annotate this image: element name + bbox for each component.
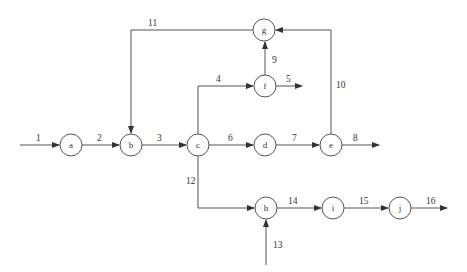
node-j: j [389, 197, 411, 219]
svg-text:a: a [69, 140, 73, 150]
node-f: f [254, 75, 276, 97]
svg-text:7: 7 [292, 133, 297, 143]
edge-9: 9 [265, 42, 277, 75]
node-g: g [253, 19, 275, 41]
svg-text:2: 2 [97, 133, 102, 143]
edge-8: 8 [342, 133, 379, 145]
svg-text:10: 10 [336, 80, 346, 90]
edge-14: 14 [277, 196, 321, 208]
svg-text:13: 13 [273, 240, 283, 250]
edge-2: 2 [82, 133, 119, 145]
svg-text:14: 14 [288, 196, 298, 206]
svg-text:5: 5 [286, 74, 291, 84]
node-d: d [254, 134, 276, 156]
node-e: e [320, 134, 342, 156]
svg-text:11: 11 [148, 18, 157, 28]
flow-diagram: 1 2 3 4 5 6 7 8 9 10 11 12 [0, 0, 467, 272]
svg-text:h: h [264, 203, 269, 213]
edge-7: 7 [276, 133, 319, 145]
svg-text:4: 4 [216, 74, 221, 84]
node-h: h [255, 197, 277, 219]
edge-6: 6 [209, 133, 253, 145]
svg-text:e: e [329, 140, 333, 150]
svg-text:3: 3 [157, 133, 162, 143]
node-a: a [60, 134, 82, 156]
node-b: b [120, 134, 142, 156]
node-c: c [187, 134, 209, 156]
edge-15: 15 [344, 196, 388, 208]
svg-text:8: 8 [353, 133, 358, 143]
svg-text:g: g [262, 25, 267, 35]
svg-text:12: 12 [186, 176, 196, 186]
edge-5: 5 [276, 74, 302, 86]
edge-16: 16 [411, 196, 447, 208]
edge-13: 13 [266, 220, 283, 265]
edge-1: 1 [20, 133, 59, 145]
edge-11: 11 [131, 18, 253, 133]
svg-text:f: f [264, 81, 267, 91]
edge-12: 12 [186, 156, 254, 208]
svg-text:b: b [129, 140, 134, 150]
svg-text:1: 1 [36, 133, 41, 143]
edge-3: 3 [142, 133, 186, 145]
svg-text:6: 6 [228, 133, 233, 143]
svg-text:16: 16 [426, 196, 436, 206]
node-i: i [322, 197, 344, 219]
svg-text:c: c [196, 140, 200, 150]
svg-text:9: 9 [272, 55, 277, 65]
svg-text:15: 15 [359, 196, 369, 206]
edge-4: 4 [198, 74, 253, 134]
svg-text:d: d [263, 140, 268, 150]
svg-text:j: j [398, 203, 402, 213]
